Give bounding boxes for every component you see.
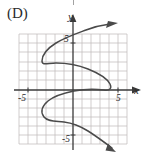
arrow-up-right-icon xyxy=(106,21,118,28)
x-tick-label-negative-five: -5 xyxy=(18,93,26,103)
x-axis-label: x xyxy=(133,84,139,96)
x-tick-label-positive-five: 5 xyxy=(116,93,121,103)
y-tick-label-positive-five: 5 xyxy=(64,34,69,44)
y-axis-label: y xyxy=(67,10,73,22)
y-tick-label-negative-five: -5 xyxy=(62,134,70,144)
graph-figure-panel: (D) xyxy=(0,0,148,159)
function-curve xyxy=(42,21,118,152)
coordinate-plane-svg: x y -5 5 5 -5 xyxy=(0,0,148,159)
